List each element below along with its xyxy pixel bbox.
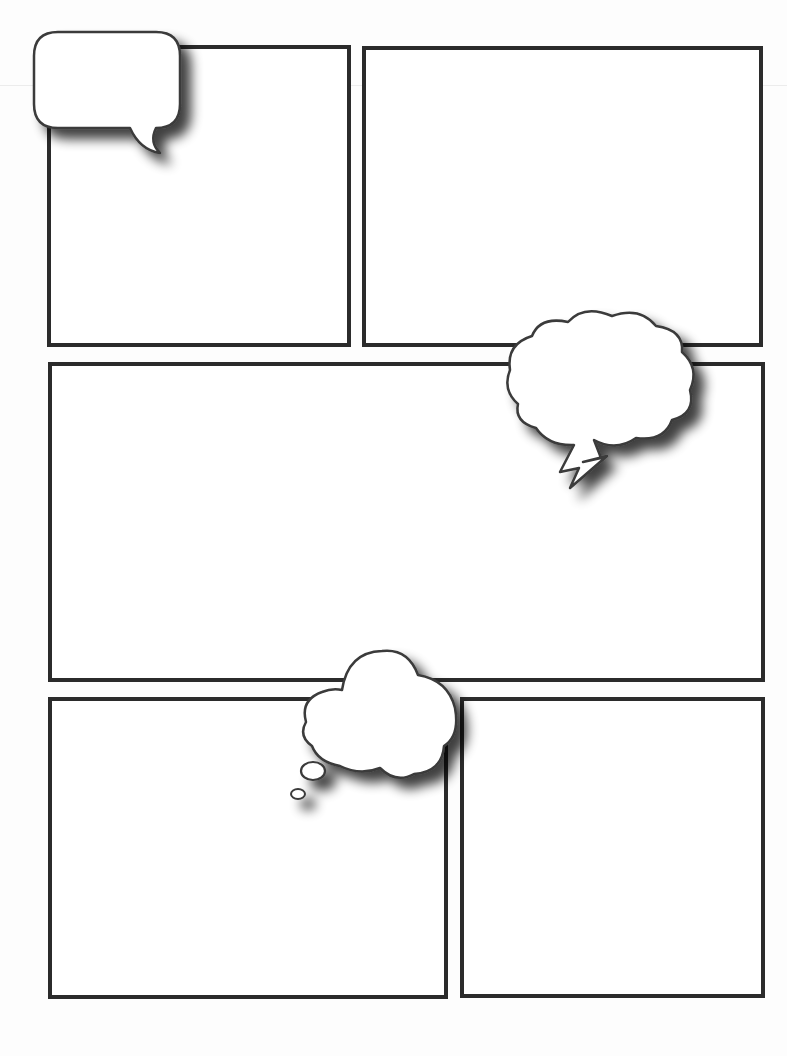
shout-cloud-bubble[interactable] <box>507 311 693 488</box>
thought-dot-large <box>301 762 325 780</box>
speech-bubble[interactable] <box>34 32 180 153</box>
thought-bubble[interactable] <box>291 651 456 799</box>
comic-page <box>0 0 787 1056</box>
thought-dot-small <box>291 789 305 799</box>
balloons-layer <box>0 0 787 1056</box>
